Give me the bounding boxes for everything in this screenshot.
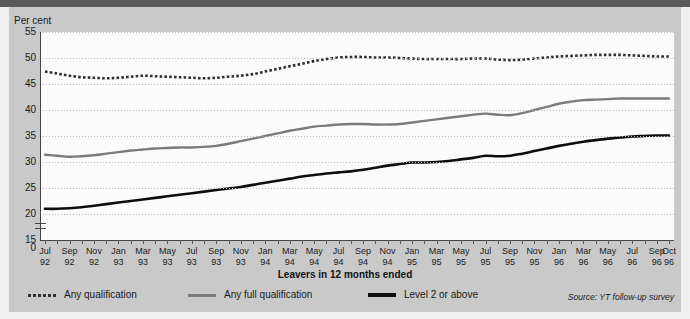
y-tick-45: 45: [2, 79, 36, 89]
x-tick: [278, 240, 279, 244]
y-tick-50: 50: [2, 53, 36, 63]
x-tick: [669, 240, 670, 244]
plot-area: [40, 32, 674, 240]
x-tick: [510, 240, 511, 244]
x-tick: [253, 240, 254, 244]
x-tick: [167, 240, 168, 244]
gridline-50: [40, 58, 674, 59]
y-axis-tick-labels: 0152025303540455055: [0, 32, 36, 248]
x-tick: [339, 240, 340, 244]
y-tick-55: 55: [2, 27, 36, 37]
axis-break-mark-1: [35, 223, 46, 224]
gridline-25: [40, 188, 674, 189]
series-line-level-2-or-above: [45, 135, 669, 208]
legend-swatch-icon: [188, 294, 216, 297]
x-tick: [412, 240, 413, 244]
x-tick: [645, 240, 646, 244]
y-tick-25: 25: [2, 183, 36, 193]
legend-label: Level 2 or above: [404, 289, 478, 300]
x-tick: [326, 240, 327, 244]
x-tick: [94, 240, 95, 244]
chart-figure: Per cent 0152025303540455055 Jul92Sep92N…: [0, 0, 690, 319]
x-tick: [498, 240, 499, 244]
x-tick: [204, 240, 205, 244]
x-tick: [559, 240, 560, 244]
x-tick: [522, 240, 523, 244]
x-tick: [131, 240, 132, 244]
x-tick: [400, 240, 401, 244]
x-tick: [351, 240, 352, 244]
x-tick: [608, 240, 609, 244]
x-tick-year: 96: [654, 257, 684, 268]
axis-break-mark-2: [35, 228, 46, 229]
x-tick: [70, 240, 71, 244]
x-tick: [547, 240, 548, 244]
x-tick: [290, 240, 291, 244]
x-tick: [388, 240, 389, 244]
x-tick: [302, 240, 303, 244]
x-tick: [265, 240, 266, 244]
x-tick: [449, 240, 450, 244]
y-tick-40: 40: [2, 105, 36, 115]
x-axis-title: Leavers in 12 months ended: [0, 269, 690, 280]
x-tick: [657, 240, 658, 244]
x-tick: [314, 240, 315, 244]
x-tick: [424, 240, 425, 244]
x-tick: [216, 240, 217, 244]
x-tick-month: Oct: [654, 246, 684, 257]
y-axis-line: [40, 32, 41, 240]
x-tick: [571, 240, 572, 244]
gridline-40: [40, 110, 674, 111]
gridline-45: [40, 84, 674, 85]
y-tick-30: 30: [2, 157, 36, 167]
x-tick: [57, 240, 58, 244]
x-tick: [118, 240, 119, 244]
x-tick: [620, 240, 621, 244]
gridline-55: [40, 32, 674, 33]
x-tick: [461, 240, 462, 244]
x-tick: [180, 240, 181, 244]
x-tick: [583, 240, 584, 244]
x-tick: [241, 240, 242, 244]
x-tick: [192, 240, 193, 244]
x-tick: [82, 240, 83, 244]
x-tick: [534, 240, 535, 244]
x-tick: [375, 240, 376, 244]
series-line-any-full-qualification: [45, 99, 669, 157]
gridline-20: [40, 214, 674, 215]
x-tick: [486, 240, 487, 244]
x-tick: [473, 240, 474, 244]
x-tick: [437, 240, 438, 244]
x-tick: [229, 240, 230, 244]
y-tick-35: 35: [2, 131, 36, 141]
source-note: Source: YT follow-up survey: [568, 292, 674, 302]
x-tick: [363, 240, 364, 244]
x-tick: [632, 240, 633, 244]
y-tick-15: 15: [2, 235, 36, 245]
gridline-30: [40, 162, 674, 163]
gridline-35: [40, 136, 674, 137]
x-tick-label: Oct96: [654, 246, 684, 267]
legend-swatch-icon: [28, 294, 56, 297]
legend-label: Any qualification: [64, 289, 137, 300]
legend-label: Any full qualification: [224, 289, 312, 300]
x-tick: [596, 240, 597, 244]
x-tick: [155, 240, 156, 244]
legend-swatch-icon: [368, 293, 396, 297]
y-tick-20: 20: [2, 209, 36, 219]
x-tick: [106, 240, 107, 244]
x-tick: [143, 240, 144, 244]
x-axis-line: [40, 240, 674, 241]
y-axis-title: Per cent: [14, 15, 51, 26]
bottom-rule: [0, 312, 690, 319]
top-rule: [0, 0, 690, 7]
x-tick: [45, 240, 46, 244]
